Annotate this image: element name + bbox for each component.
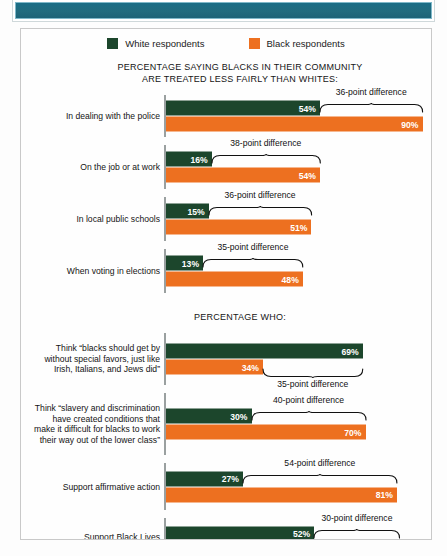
section-spacer [21, 297, 431, 311]
section-heading-line2: ARE TREATED LESS FAIRLY THAN WHITES: [49, 73, 431, 85]
brace-icon [252, 411, 366, 422]
difference-label: 38-point difference [230, 138, 301, 148]
top-banner-frame [12, 0, 435, 22]
square-swatch-icon [249, 38, 260, 49]
bar-value-white: 69% [341, 346, 358, 356]
category-label-line: When voting in elections [24, 266, 160, 277]
difference-label: 54-point difference [284, 458, 355, 468]
chart-legend: White respondents Black respondents [21, 29, 431, 49]
category-label-line: Support Black Lives [24, 531, 160, 540]
chart-bar-group: In dealing with the police 54% 90% 36-po… [21, 91, 431, 141]
chart-bar-group: Support affirmative action 27% 81% 54-po… [21, 459, 431, 514]
difference-label: 40-point difference [273, 395, 344, 405]
chart-bar-group: When voting in elections 13% 48% 35-poin… [21, 245, 431, 297]
category-label: When voting in elections [24, 266, 160, 277]
category-label-line: Support affirmative action [24, 481, 160, 492]
category-label-line: In local public schools [24, 214, 160, 225]
legend-label-black: Black respondents [267, 38, 345, 49]
category-label-line: Think “blacks should get by [24, 343, 160, 354]
bar-value-white: 15% [188, 206, 205, 216]
top-banner [15, 2, 432, 19]
chart-plot-fairness: In dealing with the police 54% 90% 36-po… [21, 91, 431, 297]
brace-icon [314, 529, 400, 540]
bar-black-respondents[interactable]: 90% [166, 117, 423, 132]
legend-item-white: White respondents [107, 38, 204, 49]
category-label: On the job or at work [24, 162, 160, 173]
bar-black-respondents[interactable]: 70% [166, 425, 366, 440]
bar-black-respondents[interactable]: 34% [166, 360, 263, 375]
category-label: In local public schools [24, 214, 160, 225]
difference-label: 36-point difference [225, 190, 296, 200]
bar-value-black: 70% [344, 427, 361, 437]
bar-white-respondents[interactable]: 52% [166, 526, 314, 540]
bar-white-respondents[interactable]: 13% [166, 256, 203, 271]
bar-value-black: 51% [290, 222, 307, 232]
bar-black-respondents[interactable]: 51% [166, 220, 311, 235]
category-label: In dealing with the police [24, 111, 160, 122]
category-label-line: Think “slavery and discrimination [24, 403, 160, 414]
legend-item-black: Black respondents [249, 38, 345, 49]
category-label: Think “slavery and discriminationhave cr… [24, 403, 160, 445]
chart-card: White respondents Black respondents PERC… [20, 28, 432, 540]
difference-label: 36-point difference [336, 87, 407, 97]
bar-value-black: 54% [299, 170, 316, 180]
bar-white-respondents[interactable]: 27% [166, 471, 243, 486]
difference-label: 35-point difference [277, 379, 348, 389]
category-label-line: their way out of the lower class” [24, 435, 160, 446]
category-label: Support Black LivesMatter movement [24, 531, 160, 540]
legend-label-white: White respondents [125, 38, 204, 49]
section-heading-fairness: PERCENTAGE SAYING BLACKS IN THEIR COMMUN… [21, 61, 431, 85]
brace-icon [320, 103, 423, 114]
category-label-line: have created conditions that [24, 414, 160, 425]
category-label-line: make it difficult for blacks to work [24, 424, 160, 435]
category-label-line: On the job or at work [24, 162, 160, 173]
bar-black-respondents[interactable]: 48% [166, 272, 303, 287]
bar-white-respondents[interactable]: 30% [166, 409, 252, 424]
brace-icon [212, 154, 320, 165]
bar-value-white: 30% [230, 411, 247, 421]
bar-white-respondents[interactable]: 15% [166, 204, 209, 219]
chart-bar-group: Think “slavery and discriminationhave cr… [21, 389, 431, 459]
bar-value-black: 90% [401, 119, 418, 129]
bar-black-respondents[interactable]: 81% [166, 487, 397, 502]
bar-white-respondents[interactable]: 69% [166, 344, 363, 359]
chart-bar-group: In local public schools 15% 51% 36-point… [21, 193, 431, 245]
category-label-line: In dealing with the police [24, 111, 160, 122]
brace-icon [243, 474, 397, 485]
bar-value-white: 52% [293, 529, 310, 539]
bar-black-respondents[interactable]: 54% [166, 168, 320, 183]
square-swatch-icon [107, 38, 118, 49]
chart-bar-group: On the job or at work 16% 54% 38-point d… [21, 141, 431, 193]
difference-label: 30-point difference [321, 513, 392, 523]
bar-value-white: 13% [182, 258, 199, 268]
chart-bar-group: Support Black LivesMatter movement 52% 8… [21, 514, 431, 540]
section-heading-percentage-who: PERCENTAGE WHO: [21, 311, 431, 323]
category-label: Support affirmative action [24, 481, 160, 492]
difference-label: 35-point difference [217, 242, 288, 252]
brace-icon [263, 367, 363, 378]
bar-value-black: 48% [282, 274, 299, 284]
category-label-line: Irish, Italians, and Jews did” [24, 364, 160, 375]
brace-icon [203, 258, 303, 269]
chart-bar-group: Think “blacks should get bywithout speci… [21, 329, 431, 389]
bar-value-white: 27% [222, 474, 239, 484]
section-heading-line1: PERCENTAGE SAYING BLACKS IN THEIR COMMUN… [49, 61, 431, 73]
section-heading-line1: PERCENTAGE WHO: [49, 311, 431, 323]
bar-white-respondents[interactable]: 54% [166, 101, 320, 116]
bar-value-white: 16% [190, 154, 207, 164]
brace-icon [209, 206, 312, 217]
bar-value-black: 81% [376, 490, 393, 500]
bar-value-white: 54% [299, 103, 316, 113]
bar-value-black: 34% [242, 362, 259, 372]
category-label-line: without special favors, just like [24, 354, 160, 365]
category-label: Think “blacks should get bywithout speci… [24, 343, 160, 375]
bar-white-respondents[interactable]: 16% [166, 152, 212, 167]
chart-plot-percentage-who: Think “blacks should get bywithout speci… [21, 329, 431, 540]
